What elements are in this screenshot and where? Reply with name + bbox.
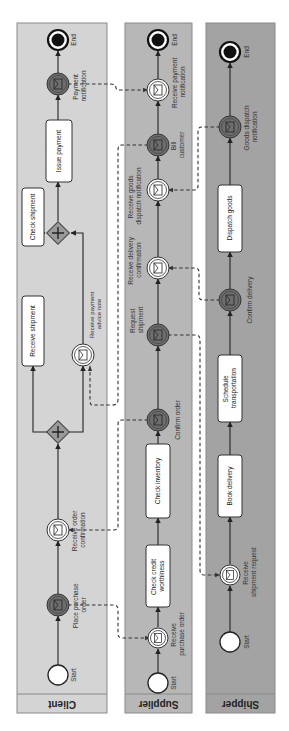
lane-label-supplier: Supplier [138,699,178,710]
supplier-end-label: End [171,34,178,46]
receive-order-confirmation-event[interactable] [47,519,69,541]
book-delivery-label: Book delivery [226,466,234,506]
receive-delivery-confirmation-label: Receive delivery confirmation [127,235,142,285]
receive-shipment-task[interactable]: Receive shipment [22,296,44,366]
check-inventory-label: Check inventory [154,457,162,504]
client-start-event[interactable] [48,665,68,685]
schedule-transportation-task[interactable]: Schedule transportation [218,355,242,422]
schedule-transportation-label: Schedule transportation [222,368,238,408]
request-shipment-label: Request shipment [129,307,145,334]
receive-delivery-confirmation-event[interactable] [147,257,169,279]
receive-shipment-label: Receive shipment [29,305,37,357]
lane-label-client: Client [47,699,75,710]
confirm-delivery-event[interactable] [219,289,241,311]
check-inventory-task[interactable]: Check inventory [146,444,170,518]
payment-notification-event[interactable] [47,73,69,95]
issue-payment-task[interactable]: Issue payment [46,120,72,182]
envelope-icon [54,525,62,535]
lane-label-shipper: Shipper [222,699,259,710]
envelope-icon [154,185,162,195]
envelope-icon [226,571,233,580]
place-purchase-order-event[interactable] [47,594,69,616]
confirm-order-label: Confirm order [174,399,181,440]
dispatch-goods-task[interactable]: Dispatch goods [218,185,242,252]
client-end-event[interactable] [48,30,68,50]
shipper-end-label: End [243,46,250,58]
dispatch-goods-label: Dispatch goods [226,195,234,241]
shipper-start-event[interactable] [220,632,240,652]
envelope-icon [154,634,161,643]
envelope-icon [154,85,162,95]
receive-goods-dispatch-notification-event[interactable] [147,179,169,201]
receive-payment-notification-event[interactable] [147,79,169,101]
shipper-end-event[interactable] [220,42,240,62]
envelope-icon [154,263,162,273]
receive-order-confirmation-label: Receive order confirmation [71,509,86,551]
receive-goods-dispatch-notification-label: Receive goods dispatch notification [127,167,143,224]
supplier-end-event[interactable] [148,30,168,50]
supplier-start-event[interactable] [148,673,168,693]
envelope-icon [79,350,87,360]
check-shipment-task[interactable]: Check shipment [22,188,44,246]
check-credit-worthiness-label: Check credit worthiness [150,557,165,595]
bill-customer-event[interactable] [147,134,169,156]
book-delivery-task[interactable]: Book delivery [218,455,242,517]
shipper-start-label: Start [243,635,250,649]
confirm-order-event[interactable] [147,409,169,431]
payment-notification-label: Payment notification [72,70,87,101]
check-shipment-label: Check shipment [29,194,37,241]
client-end-label: End [70,34,77,46]
bpmn-diagram: Client Supplier Shipper [0,0,289,731]
check-credit-worthiness-task[interactable]: Check credit worthiness [146,545,170,607]
receive-shipment-request-event[interactable] [220,565,240,585]
supplier-start-label: Start [170,676,177,690]
receive-payment-advice-event[interactable] [72,344,94,366]
request-shipment-event[interactable] [147,324,169,346]
confirm-delivery-label: Confirm delivery [246,276,254,324]
receive-purchase-order-event[interactable] [148,628,168,648]
goods-dispatch-notification-event[interactable] [219,116,241,138]
issue-payment-label: Issue payment [55,130,63,172]
client-start-label: Start [70,668,77,682]
